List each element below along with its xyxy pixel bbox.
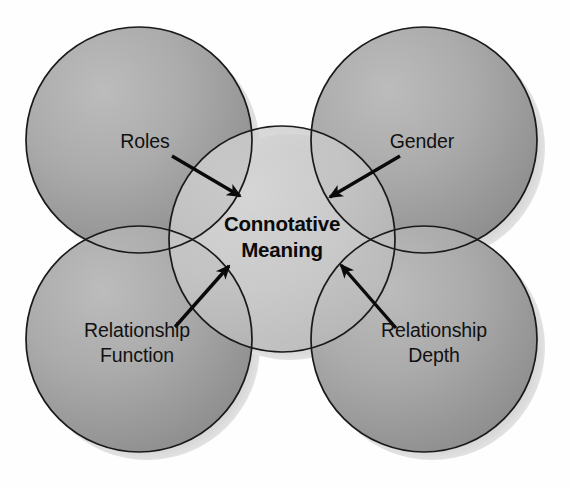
label-roles: Roles bbox=[120, 130, 170, 152]
label-relationship-depth-line1: Relationship bbox=[381, 319, 487, 341]
label-relationship-function-line1: Relationship bbox=[84, 319, 190, 341]
venn-diagram-canvas: Roles Gender Relationship Function Relat… bbox=[0, 0, 572, 486]
venn-diagram-svg: Roles Gender Relationship Function Relat… bbox=[0, 0, 572, 486]
label-relationship-function-line2: Function bbox=[100, 344, 174, 366]
center-label-line2: Meaning bbox=[241, 238, 323, 261]
label-relationship-depth-line2: Depth bbox=[408, 344, 460, 366]
center-label-line1: Connotative bbox=[224, 212, 340, 235]
label-gender: Gender bbox=[390, 130, 455, 152]
